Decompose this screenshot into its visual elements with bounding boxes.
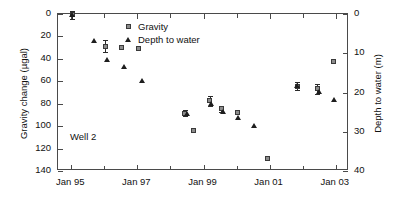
gravity-depth-scatter-chart: Gravity change (µgal) Depth to water (m)… [0, 0, 399, 206]
chart-legend: Gravity Depth to water [122, 20, 200, 46]
plot-area [57, 13, 348, 170]
depth-data-point [316, 89, 322, 94]
y-left-tick-label: 120 [17, 142, 51, 153]
x-major-tick-top [336, 14, 337, 19]
x-major-tick [71, 165, 72, 170]
y-right-tick-label: 40 [354, 164, 384, 175]
legend-label-gravity: Gravity [138, 20, 168, 33]
y-left-tick-label: 0 [17, 7, 51, 18]
y-right-tick [343, 93, 348, 94]
square-marker-icon [122, 24, 134, 29]
gravity-data-point [191, 128, 196, 133]
depth-data-point [139, 78, 145, 83]
y-right-tick-label: 0 [354, 7, 384, 18]
x-major-tick-top [204, 14, 205, 19]
y-left-tick-label: 100 [17, 119, 51, 130]
depth-data-point [184, 111, 190, 116]
depth-data-point [69, 12, 75, 17]
y-left-tick [58, 36, 63, 37]
x-major-tick-top [270, 14, 271, 19]
x-major-tick [336, 165, 337, 170]
well-annotation: Well 2 [70, 131, 96, 142]
y-left-tick-label: 140 [17, 164, 51, 175]
y-left-tick [58, 171, 63, 172]
x-major-tick [204, 165, 205, 170]
y-left-tick [58, 59, 63, 60]
x-major-tick-top [137, 14, 138, 19]
x-tick-label: Jan 95 [40, 176, 100, 187]
x-minor-tick-top [303, 14, 304, 18]
x-tick-label: Jan 03 [305, 176, 365, 187]
x-minor-tick [170, 166, 171, 170]
legend-item-gravity: Gravity [122, 20, 200, 33]
gravity-data-point [136, 46, 141, 51]
y-right-tick-label: 10 [354, 46, 384, 57]
x-tick-label: Jan 99 [173, 176, 233, 187]
y-right-tick [343, 171, 348, 172]
y-left-tick-label: 20 [17, 29, 51, 40]
y-right-tick-label: 30 [354, 125, 384, 136]
triangle-marker-icon [122, 37, 134, 42]
x-minor-tick [237, 166, 238, 170]
y-left-tick [58, 14, 63, 15]
depth-data-point [104, 57, 110, 62]
gravity-data-point [265, 156, 270, 161]
y-left-tick-label: 40 [17, 52, 51, 63]
depth-data-point [91, 38, 97, 43]
gravity-data-point [331, 59, 336, 64]
y-right-tick [343, 14, 348, 15]
depth-data-point [121, 64, 127, 69]
depth-data-point [294, 83, 300, 88]
y-left-tick [58, 149, 63, 150]
y-left-tick [58, 126, 63, 127]
depth-data-point [331, 97, 337, 102]
y-left-tick [58, 81, 63, 82]
gravity-data-point [103, 44, 108, 49]
y-left-tick-label: 80 [17, 97, 51, 108]
y-right-tick-label: 20 [354, 86, 384, 97]
depth-data-point [251, 123, 257, 128]
x-minor-tick-top [170, 14, 171, 18]
y-right-tick [343, 132, 348, 133]
y-left-tick-label: 60 [17, 74, 51, 85]
x-minor-tick-top [237, 14, 238, 18]
x-major-tick [270, 165, 271, 170]
depth-data-point [235, 115, 241, 120]
depth-data-point [208, 101, 214, 106]
x-minor-tick-top [104, 14, 105, 18]
legend-item-depth-to-water: Depth to water [122, 33, 200, 46]
x-tick-label: Jan 01 [239, 176, 299, 187]
legend-label-depth-to-water: Depth to water [138, 33, 200, 46]
x-minor-tick [303, 166, 304, 170]
y-left-tick [58, 104, 63, 105]
x-minor-tick [104, 166, 105, 170]
x-tick-label: Jan 97 [106, 176, 166, 187]
y-right-tick [343, 53, 348, 54]
depth-data-point [220, 109, 226, 114]
x-major-tick [137, 165, 138, 170]
